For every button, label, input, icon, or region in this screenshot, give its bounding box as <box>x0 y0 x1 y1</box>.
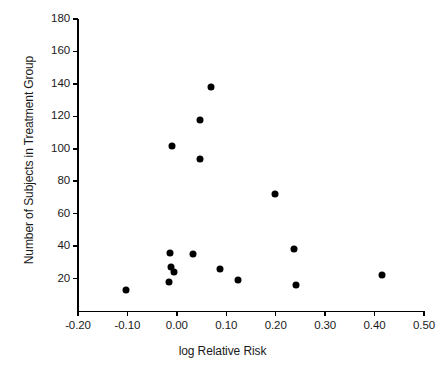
y-axis-tick <box>73 278 78 280</box>
y-axis-tick <box>73 51 78 53</box>
x-axis-tick <box>127 311 129 316</box>
data-point <box>123 286 130 293</box>
data-point <box>208 84 215 91</box>
y-axis-title: Number of Subjects in Treatment Group <box>22 14 36 306</box>
x-axis-tick <box>275 311 277 316</box>
y-axis-tick <box>73 180 78 182</box>
data-point <box>170 269 177 276</box>
data-point <box>196 116 203 123</box>
data-point <box>292 282 299 289</box>
y-axis-tick <box>73 83 78 85</box>
x-axis-tick <box>324 311 326 316</box>
x-axis-tick <box>176 311 178 316</box>
scatter-plot-figure: 20406080100120140160180 -0.20-0.100.000.… <box>0 0 445 380</box>
data-point <box>216 265 223 272</box>
data-point <box>272 191 279 198</box>
y-axis-tick <box>73 213 78 215</box>
data-point <box>167 249 174 256</box>
x-axis-tick <box>423 311 425 316</box>
x-axis-tick-label: 0.50 <box>394 319 445 331</box>
data-points-layer <box>78 19 424 311</box>
x-axis-tick <box>374 311 376 316</box>
y-axis-tick <box>73 148 78 150</box>
data-point <box>235 277 242 284</box>
x-axis-tick <box>226 311 228 316</box>
data-point <box>168 142 175 149</box>
x-axis-title: log Relative Risk <box>0 344 445 358</box>
x-axis-tick <box>77 311 79 316</box>
data-point <box>190 251 197 258</box>
y-axis-tick <box>73 18 78 20</box>
y-axis-tick <box>73 245 78 247</box>
data-point <box>290 246 297 253</box>
data-point <box>166 278 173 285</box>
y-axis-tick <box>73 116 78 118</box>
data-point <box>196 155 203 162</box>
data-point <box>378 272 385 279</box>
